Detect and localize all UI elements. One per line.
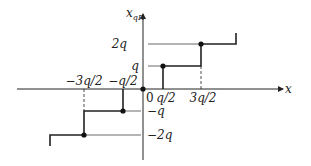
point-origin [140, 86, 145, 91]
staircase-positive [163, 33, 236, 89]
point-q2 [160, 63, 165, 68]
x-tick-3q2: 3q/2 [190, 91, 217, 105]
point-neg-3q2 [81, 132, 86, 137]
origin-label: 0 [146, 91, 154, 105]
y-tick-q: q [131, 59, 139, 73]
x-tick-q2: q/2 [156, 91, 175, 105]
y-tick-2q: 2q [111, 37, 128, 51]
point-3q2 [198, 41, 203, 46]
staircase-negative [50, 89, 123, 146]
point-neg-q2 [120, 108, 125, 113]
x-tick-neg-3q2: −3q/2 [65, 74, 102, 88]
y-tick-neg-2q: −2q [147, 128, 173, 142]
y-tick-neg-q: −q [147, 104, 165, 118]
x-axis-label: x [285, 82, 292, 96]
quantizer-diagram: xqR x 0 2q q −q −2q −3q/2 −q/2 q/2 3q/2 [0, 0, 311, 166]
x-tick-neg-q2: −q/2 [108, 74, 137, 88]
y-axis-label: xqR [126, 6, 144, 22]
